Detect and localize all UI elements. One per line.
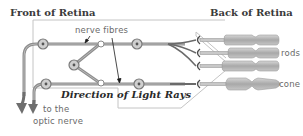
back-of-retina-title: Back of Retina [210, 7, 293, 18]
optic-nerve-label-line2: optic nerve [33, 116, 83, 126]
synapse-forks [198, 36, 201, 88]
direction-of-light-label: Direction of Light Rays [61, 89, 191, 100]
rod-cell-3 [200, 61, 279, 71]
nerve-fibres-label: nerve fibres [75, 25, 128, 35]
cone-cell [200, 78, 280, 90]
fibre-fan-out [168, 40, 196, 84]
junction-nodes [98, 41, 104, 86]
ganglion-cells [38, 39, 144, 89]
front-of-retina-title: Front of Retina [10, 7, 96, 18]
rods-label: rods [281, 48, 300, 58]
cone-label: cone [279, 79, 300, 89]
rod-cell-1 [200, 35, 279, 45]
optic-nerve-label-line1: to the [43, 104, 69, 114]
